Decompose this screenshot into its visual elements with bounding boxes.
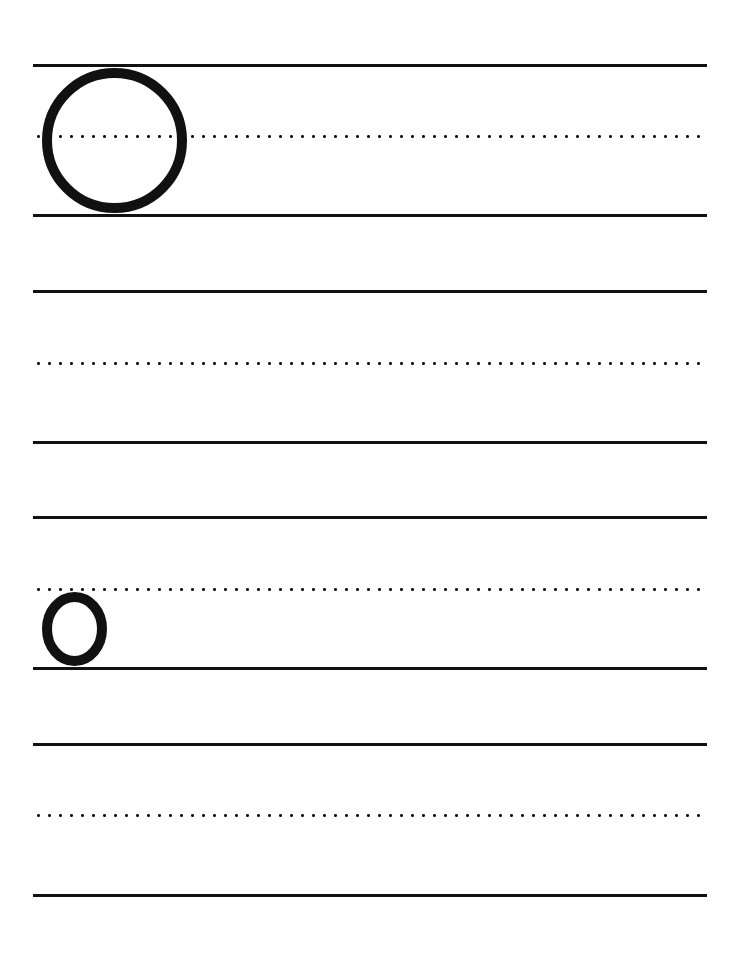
lowercase-o-glyph: [47, 597, 102, 661]
top-line: [33, 516, 707, 519]
base-line: [33, 894, 707, 897]
base-line: [33, 441, 707, 444]
handwriting-worksheet: O: [0, 0, 749, 955]
midline-dotted: [33, 814, 707, 817]
midline-dotted: [33, 135, 707, 138]
letter-examples: [0, 0, 749, 955]
midline-dotted: [33, 362, 707, 365]
midline-dotted: [33, 588, 707, 591]
base-line: [33, 667, 707, 670]
base-line: [33, 214, 707, 217]
top-line: [33, 290, 707, 293]
top-line: [33, 743, 707, 746]
uppercase-o-glyph: [47, 73, 182, 208]
top-line: [33, 64, 707, 67]
